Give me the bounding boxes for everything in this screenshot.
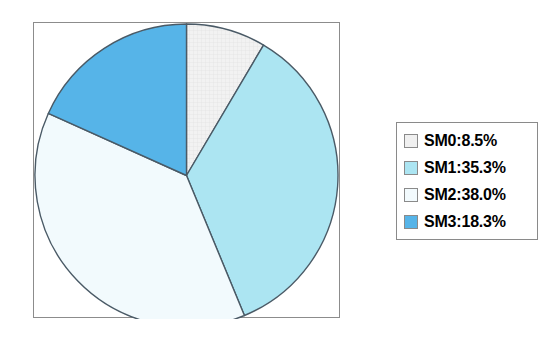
legend-swatch-sm2 [404,188,418,202]
legend-swatch-sm0 [404,134,418,148]
legend-label-sm2: SM2:38.0% [424,187,506,203]
legend-swatch-sm3 [404,215,418,229]
legend-item-sm3: SM3:18.3% [404,209,531,234]
pie-slice-group [35,24,338,319]
legend-item-sm2: SM2:38.0% [404,182,531,207]
legend-label-sm3: SM3:18.3% [424,214,506,230]
legend-label-sm0: SM0:8.5% [424,133,497,149]
legend-label-sm1: SM1:35.3% [424,160,506,176]
chart-legend: SM0:8.5% SM1:35.3% SM2:38.0% SM3:18.3% [396,122,538,240]
pie-chart [33,22,341,319]
legend-item-sm0: SM0:8.5% [404,128,531,153]
legend-item-sm1: SM1:35.3% [404,155,531,180]
figure-canvas: SM0:8.5% SM1:35.3% SM2:38.0% SM3:18.3% [0,0,552,340]
legend-swatch-sm1 [404,161,418,175]
